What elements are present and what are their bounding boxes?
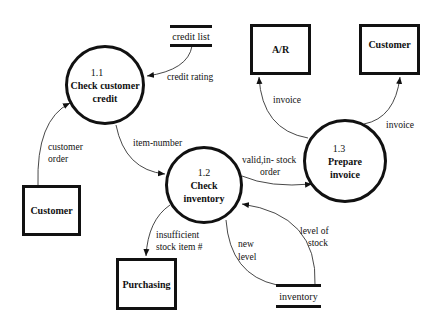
entity-label: Customer [30,205,72,216]
process-id: 1.2 [198,166,211,179]
process-name: Check customer [70,79,139,92]
flow-label-valid-order: order [260,166,280,178]
process-check-customer-credit: 1.1 Check customer credit [65,45,145,125]
process-name: invoice [330,168,360,181]
process-prepare-invoice: 1.3 Prepare invoice [303,119,387,203]
process-name: inventory [183,192,224,205]
flow-label-insufficient-stock: stock item # [156,241,202,253]
process-id: 1.1 [91,66,104,79]
flow-label-level-of-stock: level of [300,225,329,237]
entity-purchasing: Purchasing [116,258,177,310]
flow-label-new-level: level [238,251,256,263]
process-name: credit [93,92,118,105]
flow-label-insufficient-stock: insufficient [156,229,199,241]
flow-label-invoice-ar: invoice [273,94,301,106]
flow-label-level-of-stock: stock [308,237,328,249]
entity-ar: A/R [250,24,311,75]
process-name: Check [190,179,217,192]
process-id: 1.3 [333,142,346,155]
store-credit-list: credit list [170,25,212,47]
flow-label-valid-order: valid,in- stock [242,154,296,166]
data-flow-diagram: 1.1 Check customer credit 1.2 Check inve… [0,0,439,329]
flow-label-invoice-customer: invoice [386,119,414,131]
store-label: inventory [279,291,317,302]
flow-invoice-customer [364,77,400,124]
store-inventory: inventory [276,284,321,308]
flow-label-new-level: new [238,238,254,250]
entity-label: Purchasing [122,279,170,290]
flow-label-item-number: item-number [133,137,182,149]
flow-invoice-ar [259,77,308,138]
process-name: Prepare [328,155,362,168]
flow-label-customer-order: customer [48,141,83,153]
entity-customer-top: Customer [359,24,420,75]
flow-label-customer-order: order [48,153,68,165]
entity-label: A/R [272,44,289,55]
flow-item-number [116,125,165,174]
process-check-inventory: 1.2 Check inventory [165,146,243,224]
entity-label: Customer [368,39,410,50]
store-label: credit list [172,31,210,42]
flow-label-credit-rating: credit rating [167,71,213,83]
entity-customer-left: Customer [22,185,81,236]
